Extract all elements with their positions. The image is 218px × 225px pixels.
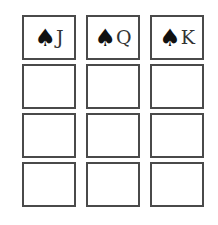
- card-rank: K: [181, 28, 195, 47]
- empty-slot-1-0[interactable]: [22, 64, 76, 109]
- card-rank: J: [56, 28, 64, 47]
- empty-slot-2-0[interactable]: [22, 113, 76, 158]
- empty-slot-3-1[interactable]: [86, 162, 140, 207]
- spade-icon: ♠: [159, 26, 181, 50]
- empty-slot-2-1[interactable]: [86, 113, 140, 158]
- empty-slot-1-2[interactable]: [150, 64, 204, 109]
- empty-slot-1-1[interactable]: [86, 64, 140, 109]
- card-grid: ♠ J ♠ Q ♠ K: [22, 15, 204, 207]
- card-slot-0-0[interactable]: ♠ J: [22, 15, 76, 60]
- empty-slot-3-2[interactable]: [150, 162, 204, 207]
- spade-icon: ♠: [94, 26, 116, 50]
- card-slot-0-2[interactable]: ♠ K: [150, 15, 204, 60]
- empty-slot-2-2[interactable]: [150, 113, 204, 158]
- card-rank: Q: [116, 28, 132, 47]
- card-slot-0-1[interactable]: ♠ Q: [86, 15, 140, 60]
- spade-icon: ♠: [34, 26, 56, 50]
- empty-slot-3-0[interactable]: [22, 162, 76, 207]
